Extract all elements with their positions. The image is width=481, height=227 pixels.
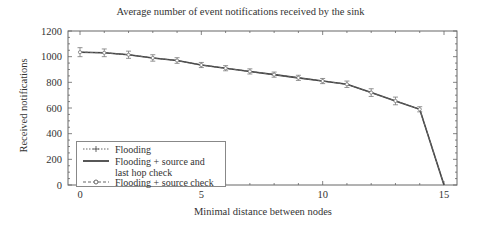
y-tick-label: 400 xyxy=(46,128,62,139)
legend-label: Flooding + source andlast hop check xyxy=(115,156,205,178)
data-marker xyxy=(103,51,106,54)
data-marker xyxy=(78,51,81,54)
legend-item-flooding: Flooding xyxy=(81,144,151,155)
data-marker xyxy=(224,67,227,70)
x-axis-label: Minimal distance between nodes xyxy=(68,206,458,217)
data-marker xyxy=(175,59,178,62)
data-marker xyxy=(321,79,324,82)
y-tick-label: 1200 xyxy=(41,26,62,37)
y-tick-label: 800 xyxy=(46,77,62,88)
data-marker xyxy=(418,108,421,111)
legend-label: Flooding + source check xyxy=(115,177,214,188)
legend-item-source-last-hop: Flooding + source andlast hop check xyxy=(81,156,205,178)
x-tick-label: 0 xyxy=(77,189,82,200)
data-marker xyxy=(248,70,251,73)
legend-label: Flooding xyxy=(115,144,151,155)
y-tick-label: 200 xyxy=(46,154,62,165)
data-marker xyxy=(297,76,300,79)
y-tick-label: 1000 xyxy=(41,51,62,62)
dotted-line-icon xyxy=(81,144,111,154)
line-chart: 020040060080010001200051015 xyxy=(0,0,481,227)
data-marker xyxy=(394,99,397,102)
solid-line-icon xyxy=(81,156,111,166)
legend: Flooding Flooding + source andlast hop c… xyxy=(76,141,226,187)
data-marker xyxy=(127,53,130,56)
x-tick-label: 5 xyxy=(199,189,204,200)
legend-item-source-check: Flooding + source check xyxy=(81,177,214,188)
dashed-circle-line-icon xyxy=(81,177,111,187)
data-marker xyxy=(200,63,203,66)
data-marker xyxy=(151,56,154,59)
data-marker xyxy=(370,91,373,94)
x-tick-label: 15 xyxy=(439,189,450,200)
data-marker xyxy=(345,83,348,86)
data-marker xyxy=(273,73,276,76)
y-tick-label: 600 xyxy=(46,103,62,114)
y-tick-label: 0 xyxy=(57,180,62,191)
y-axis-label: Received notifications xyxy=(18,41,29,171)
x-tick-label: 10 xyxy=(317,189,328,200)
